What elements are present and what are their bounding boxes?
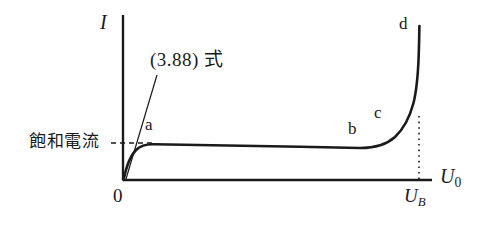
breakdown-tick-base: U [404,185,418,206]
breakdown-tick-subscript: B [418,194,426,209]
x-axis-label: U0 [440,166,461,189]
equation-reference-label: (3.88) 式 [150,50,224,69]
x-axis-label-subscript: 0 [454,175,461,190]
breakdown-voltage-tick-label: UB [404,186,426,209]
figure-root: I U0 0 UB 飽和電流 (3.88) 式 a b c d [0,0,486,226]
curve-point-label-a: a [145,116,153,133]
curve-point-label-b: b [348,120,357,137]
origin-tick-label: 0 [113,186,123,205]
x-axis-label-base: U [440,165,454,187]
y-axis-label: I [100,12,107,32]
saturation-current-label: 飽和電流 [29,133,99,150]
curve-point-label-c: c [374,104,382,121]
curve-point-label-d: d [399,15,408,32]
